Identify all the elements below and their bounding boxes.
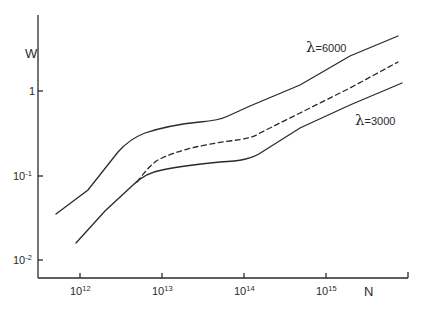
curve-lambda-6000 <box>56 36 398 214</box>
y-tick-label-1e-1: 10-1 <box>13 169 32 182</box>
label-lambda-6000: λ=6000 <box>306 38 346 56</box>
x-tick-label-1e12: 1012 <box>70 284 91 297</box>
x-tick-label-1e14: 1014 <box>234 284 255 297</box>
x-tick-label-1e15: 1015 <box>316 284 337 297</box>
chart: W 1 10-1 10-2 1012 1013 1014 1015 N λ=60… <box>0 0 423 309</box>
y-tick-label-1: 1 <box>29 85 35 97</box>
x-axis-title: N <box>364 284 373 299</box>
series-group <box>56 36 402 243</box>
label-lambda-3000: λ=3000 <box>355 111 395 129</box>
curve-lambda-3000 <box>76 83 402 243</box>
y-tick-label-1e-2: 10-2 <box>13 253 32 266</box>
y-axis-title: W <box>25 46 38 61</box>
x-tick-label-1e13: 1013 <box>152 284 173 297</box>
